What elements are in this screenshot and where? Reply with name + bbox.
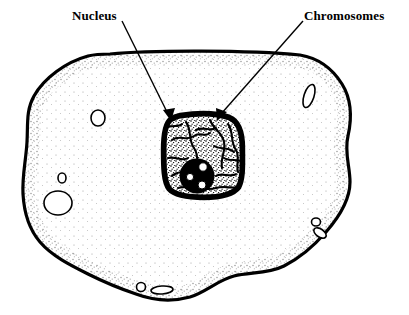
vacuole	[91, 110, 105, 126]
nucleolus-vacuole	[199, 163, 207, 171]
vacuole	[312, 218, 321, 226]
nucleolus	[180, 159, 215, 194]
vacuole	[137, 283, 146, 292]
cell-diagram-svg	[0, 0, 409, 315]
nucleolus-vacuole	[186, 173, 193, 180]
vacuole	[44, 191, 72, 215]
nucleolus-vacuole	[198, 181, 206, 189]
label-chromosomes: Chromosomes	[304, 8, 384, 24]
cell-diagram-figure: Nucleus Chromosomes	[0, 0, 409, 315]
label-nucleus: Nucleus	[72, 8, 117, 24]
vacuole	[58, 173, 66, 183]
nucleus-group	[160, 110, 250, 205]
